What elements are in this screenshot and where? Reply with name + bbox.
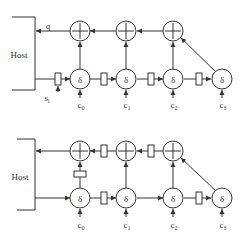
coef-label: c1 [124,220,131,231]
delay-register [101,145,107,157]
input-register [55,73,61,85]
coef-label: c0 [78,220,85,231]
delay-register [74,171,86,177]
cell-symbol: δ [171,75,175,85]
cell-symbol: δ [78,194,82,204]
cell-symbol: δ [220,194,224,204]
output-label: q [46,21,51,31]
cell-symbol: δ [78,75,82,85]
coef-label: c0 [78,100,85,111]
host-label: Host [11,172,29,182]
delay-register [148,145,154,157]
cell-symbol: δ [124,75,128,85]
systolic-array-b [17,139,232,217]
delay-register [101,73,107,85]
coef-label: c2 [171,220,178,231]
cell-symbol: δ [220,75,224,85]
input-label: si [44,93,50,104]
delay-register [196,73,202,85]
delay-register [196,192,202,204]
host-label: Host [10,50,28,60]
coef-label: c2 [171,100,178,111]
coef-label: c3 [220,220,227,231]
coef-label: c3 [220,100,227,111]
delay-register [101,192,107,204]
cell-symbol: δ [171,194,175,204]
delay-register [148,73,154,85]
cell-symbol: δ [124,194,128,204]
coef-label: c1 [124,100,131,111]
diagram-canvas: Host q si δ δ δ δ c0 c1 c2 c3 [0,0,247,247]
